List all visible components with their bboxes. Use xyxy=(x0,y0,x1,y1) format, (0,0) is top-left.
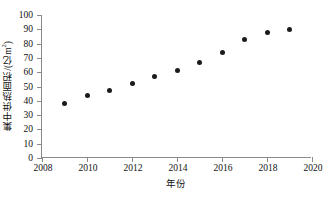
x-axis-tick-label: 2020 xyxy=(304,164,323,174)
y-axis-title-superscript: 2 xyxy=(0,44,7,47)
y-axis-tick-label: 10 xyxy=(24,140,34,150)
y-axis-tick-label: 0 xyxy=(28,154,33,164)
data-point xyxy=(152,74,157,79)
y-axis-tick: 60 xyxy=(37,72,42,73)
x-axis-tick: 2008 xyxy=(42,157,43,162)
data-point xyxy=(242,37,247,42)
y-axis-tick-label: 40 xyxy=(24,97,34,107)
x-axis-tick-label: 2012 xyxy=(124,164,143,174)
y-axis-tick-label: 60 xyxy=(24,68,34,78)
y-axis-tick: 90 xyxy=(37,29,42,30)
y-axis-title: 集中供热面积/(亿m2) xyxy=(1,15,13,157)
x-axis-tick-label: 2016 xyxy=(214,164,233,174)
data-point xyxy=(287,27,292,32)
y-axis-tick-label: 70 xyxy=(24,54,34,64)
x-axis-tick-label: 2008 xyxy=(34,164,53,174)
y-axis-tick-label: 80 xyxy=(24,40,34,50)
y-axis-tick: 40 xyxy=(37,101,42,102)
y-axis-tick: 30 xyxy=(37,115,42,116)
data-point xyxy=(85,93,90,98)
data-point xyxy=(175,68,180,73)
x-axis-tick: 2020 xyxy=(312,157,313,162)
y-axis-tick-label: 20 xyxy=(24,126,34,136)
data-point xyxy=(130,81,135,86)
y-axis-tick: 70 xyxy=(37,58,42,59)
y-axis-tick: 10 xyxy=(37,144,42,145)
x-axis-tick: 2012 xyxy=(132,157,133,162)
plot-area: 0102030405060708090100200820102012201420… xyxy=(41,15,311,158)
data-point xyxy=(197,60,202,65)
y-axis-title-text: 集中供热面积/(亿m xyxy=(3,48,13,131)
x-axis-tick-label: 2010 xyxy=(79,164,98,174)
y-axis-tick-label: 50 xyxy=(24,83,34,93)
y-axis-tick: 100 xyxy=(37,15,42,16)
x-axis-tick: 2018 xyxy=(267,157,268,162)
y-axis-tick-label: 90 xyxy=(24,26,34,36)
x-axis-tick-label: 2018 xyxy=(259,164,278,174)
y-axis-tick: 50 xyxy=(37,87,42,88)
y-axis-tick: 80 xyxy=(37,44,42,45)
data-point xyxy=(107,88,112,93)
x-axis-tick-label: 2014 xyxy=(169,164,188,174)
y-axis-tick-label: 30 xyxy=(24,111,34,121)
x-axis-title: 年份 xyxy=(41,180,310,190)
data-point xyxy=(265,30,270,35)
x-axis-tick: 2010 xyxy=(87,157,88,162)
y-axis-tick: 20 xyxy=(37,129,42,130)
x-axis-tick: 2014 xyxy=(177,157,178,162)
y-axis-title-tail: ) xyxy=(3,41,13,44)
y-axis-tick-label: 100 xyxy=(19,11,33,21)
x-axis-tick: 2016 xyxy=(222,157,223,162)
data-point xyxy=(220,50,225,55)
data-point xyxy=(62,101,67,106)
